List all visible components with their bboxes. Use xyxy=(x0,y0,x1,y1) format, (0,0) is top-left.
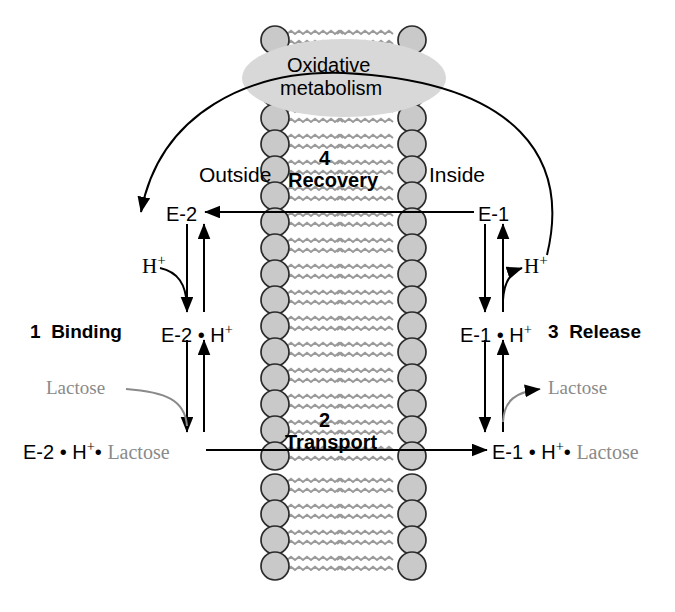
step4-number: 4 xyxy=(319,148,330,168)
proton-outside: H+ xyxy=(142,253,166,277)
species-e1-h-lactose-dot: • xyxy=(564,441,577,463)
label-outside: Outside xyxy=(199,164,271,185)
species-e1-h-text: E-1 • H xyxy=(460,324,524,346)
species-e2-h-lactose-sugar: Lactose xyxy=(107,441,169,463)
step1-binding: 1 Binding xyxy=(30,322,122,341)
oxidative-metabolism-line1: Oxidative xyxy=(287,55,370,75)
species-e1-h-lactose: E-1 • H+• Lactose xyxy=(492,439,639,462)
species-e2-h: E-2 • H+ xyxy=(161,322,233,345)
species-e2-h-charge: + xyxy=(225,321,233,337)
species-e2-h-lactose: E-2 • H+• Lactose xyxy=(23,439,170,462)
oxidative-metabolism-line2: metabolism xyxy=(280,78,382,98)
lactose-release-curve-right xyxy=(503,389,540,422)
species-e2-h-lactose-prefix: E-2 • H xyxy=(23,441,87,463)
step3-number: 3 xyxy=(548,321,559,342)
step1-number: 1 xyxy=(30,321,41,342)
proton-outside-h: H xyxy=(142,254,157,278)
species-e1-h: E-1 • H+ xyxy=(460,322,532,345)
species-e2: E-2 xyxy=(166,204,197,224)
species-e1-h-lactose-sugar: Lactose xyxy=(576,441,638,463)
species-e1-h-lactose-charge: + xyxy=(556,438,564,454)
step2-label: Transport xyxy=(285,432,377,452)
proton-inside: H+ xyxy=(524,253,548,277)
species-e2-h-text: E-2 • H xyxy=(161,324,225,346)
lactose-inside: Lactose xyxy=(548,378,607,397)
hplus-release-curve-right xyxy=(503,268,522,300)
lactose-outside: Lactose xyxy=(46,378,105,397)
proton-inside-h: H xyxy=(524,254,539,278)
diagram-canvas: Oxidative metabolism Outside Inside 4 Re… xyxy=(0,0,675,612)
species-e1-h-lactose-prefix: E-1 • H xyxy=(492,441,556,463)
species-e1-h-charge: + xyxy=(524,321,532,337)
step4-label: Recovery xyxy=(288,170,378,190)
proton-inside-charge: + xyxy=(539,252,548,268)
step3-label: Release xyxy=(569,321,641,342)
species-e2-h-lactose-dot: • xyxy=(95,441,108,463)
species-e1: E-1 xyxy=(478,204,509,224)
step3-release: 3 Release xyxy=(548,322,641,341)
step2-number: 2 xyxy=(319,410,330,430)
proton-outside-charge: + xyxy=(157,252,166,268)
step1-label: Binding xyxy=(51,321,122,342)
species-e2-h-lactose-charge: + xyxy=(87,438,95,454)
label-inside: Inside xyxy=(429,164,485,185)
lactose-binding-curve-left xyxy=(126,389,187,426)
